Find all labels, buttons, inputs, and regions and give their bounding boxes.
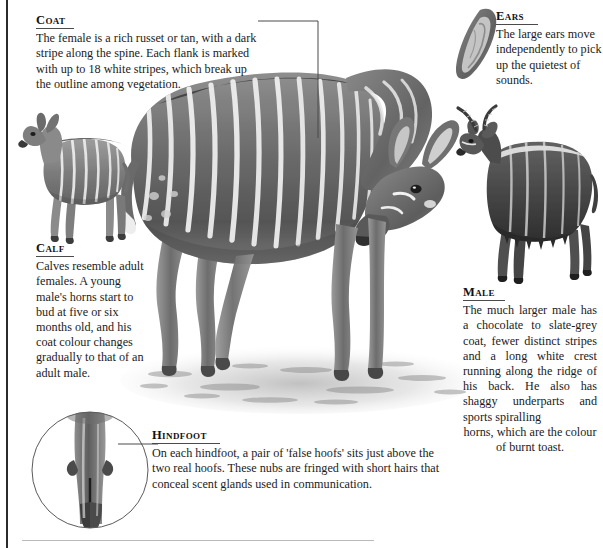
illustrated-plate: Coat The female is a rich russet or tan,… xyxy=(0,0,603,548)
callout-male-body-tail: horns, which are the colour of burnt toa… xyxy=(463,425,597,455)
callout-coat-heading: Coat xyxy=(36,14,74,29)
callout-hindfoot: Hindfoot On each hindfoot, a pair of 'fa… xyxy=(152,429,442,492)
callout-male-body-main: The much larger male has a chocolate to … xyxy=(463,303,597,423)
page-left-border xyxy=(6,0,8,548)
callout-male: Male The much larger male has a chocolat… xyxy=(463,286,597,455)
callout-calf-body: Calves resemble adult females. A young m… xyxy=(36,259,152,381)
callout-calf-heading: Calf xyxy=(36,242,74,257)
male-nyala-illustration xyxy=(452,118,600,284)
callout-ears-body: The large ears move independently to pic… xyxy=(496,27,602,88)
callout-hindfoot-heading: Hindfoot xyxy=(152,429,220,444)
calf-nyala-illustration xyxy=(16,112,138,244)
callout-male-heading: Male xyxy=(463,286,505,301)
callout-calf: Calf Calves resemble adult females. A yo… xyxy=(36,242,152,381)
callout-hindfoot-body: On each hindfoot, a pair of 'false hoofs… xyxy=(152,446,442,492)
hindfoot-detail-illustration xyxy=(26,408,154,536)
callout-ears-heading: Ears xyxy=(496,10,538,25)
callout-ears: Ears The large ears move independently t… xyxy=(496,10,602,88)
callout-coat: Coat The female is a rich russet or tan,… xyxy=(36,14,260,92)
callout-male-body: The much larger male has a chocolate to … xyxy=(463,303,597,455)
callout-coat-body: The female is a rich russet or tan, with… xyxy=(36,31,260,92)
page-bottom-rule xyxy=(22,540,374,541)
